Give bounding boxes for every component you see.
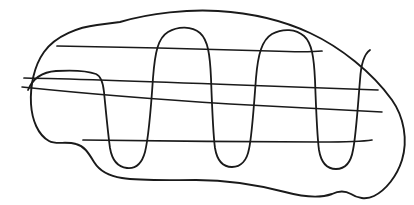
line-drawing-canvas — [0, 0, 414, 205]
sketch-svg — [0, 0, 414, 205]
